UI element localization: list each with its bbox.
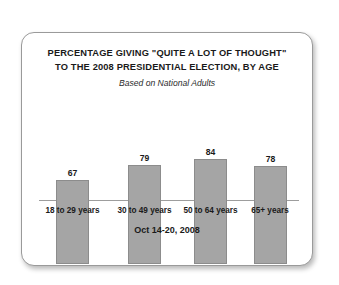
bar-value-0: 67 bbox=[56, 168, 89, 178]
bar-group-1: 79 bbox=[128, 97, 161, 265]
x-tick-label-3: 65+ years bbox=[234, 206, 306, 215]
bar-rect-3 bbox=[254, 166, 287, 264]
bar-group-2: 84 bbox=[194, 97, 227, 265]
bar-group-0: 67 bbox=[56, 97, 89, 265]
bar-value-3: 78 bbox=[254, 154, 287, 164]
chart-footnote: Oct 14-20, 2008 bbox=[22, 225, 312, 235]
bar-rect-0 bbox=[56, 180, 89, 264]
bar-value-2: 84 bbox=[194, 147, 227, 157]
chart-card: PERCENTAGE GIVING "QUITE A LOT OF THOUGH… bbox=[21, 32, 313, 266]
bar-value-1: 79 bbox=[128, 153, 161, 163]
bar-group-3: 78 bbox=[254, 97, 287, 265]
